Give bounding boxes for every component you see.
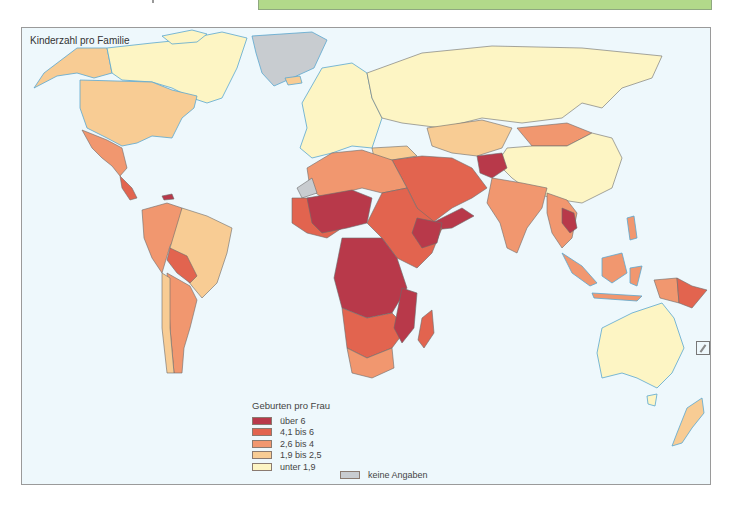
legend-label: 1,9 bis 2,5 — [280, 450, 322, 460]
region-sulawesi — [630, 266, 642, 286]
legend: Geburten pro Frau über 6 4,1 bis 6 2,6 b… — [252, 400, 452, 473]
inset-box — [696, 341, 710, 355]
legend-label: über 6 — [280, 416, 306, 426]
region-russia — [367, 46, 662, 128]
legend-label: 2,6 bis 4 — [280, 439, 314, 449]
legend-item-no-data: keine Angaben — [340, 470, 428, 480]
legend-swatch — [340, 471, 360, 479]
region-iceland — [285, 76, 302, 85]
legend-swatch — [252, 451, 272, 459]
legend-item: 1,9 bis 2,5 — [252, 450, 452, 462]
region-new-guinea-west — [654, 278, 679, 303]
region-new-zealand — [672, 398, 704, 446]
legend-item: 2,6 bis 4 — [252, 438, 452, 450]
region-central-america — [120, 176, 137, 200]
legend-item: über 6 — [252, 415, 452, 427]
region-india — [487, 178, 547, 253]
legend-swatch — [252, 417, 272, 425]
top-mark — [152, 0, 154, 3]
region-sumatra — [562, 253, 597, 286]
region-java — [592, 293, 642, 301]
header-green-box — [258, 0, 712, 10]
legend-item: 4,1 bis 6 — [252, 427, 452, 439]
legend-label: unter 1,9 — [280, 462, 316, 472]
legend-swatch — [252, 428, 272, 436]
legend-swatch — [252, 463, 272, 471]
region-australia — [597, 303, 684, 388]
legend-label: keine Angaben — [368, 470, 428, 480]
region-papua-new-guinea — [677, 278, 707, 308]
map-frame: Kinderzahl pro Familie — [21, 27, 711, 485]
legend-title: Geburten pro Frau — [252, 400, 452, 411]
region-philippines — [627, 216, 637, 240]
region-borneo — [602, 253, 627, 283]
region-madagascar — [418, 310, 434, 348]
region-tasmania — [647, 394, 657, 406]
legend-label: 4,1 bis 6 — [280, 427, 314, 437]
legend-swatch — [252, 440, 272, 448]
region-afghanistan — [477, 153, 507, 178]
region-sahel — [307, 190, 372, 233]
region-haiti — [162, 194, 174, 200]
